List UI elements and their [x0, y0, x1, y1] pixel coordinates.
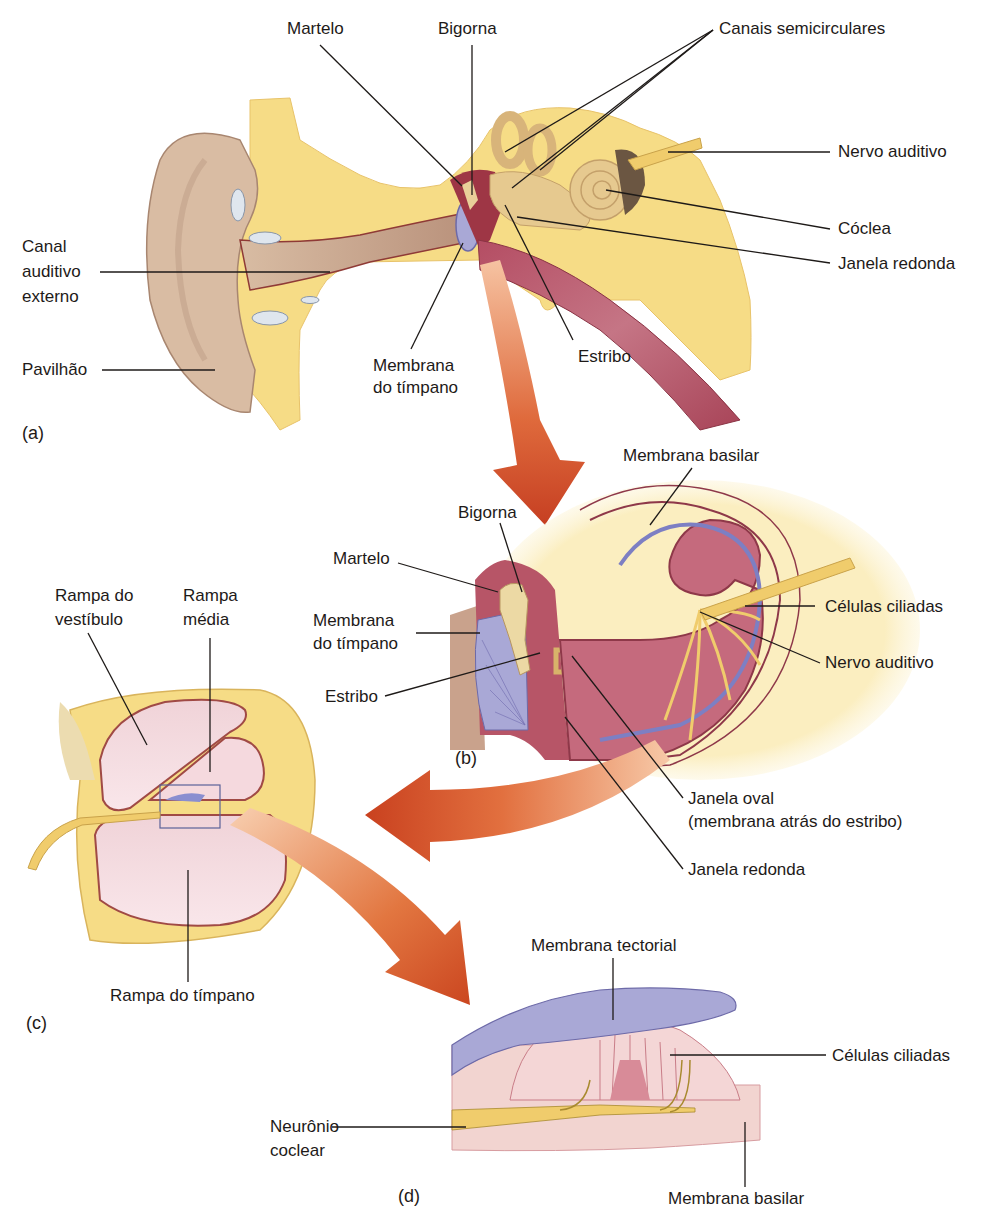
label-pavilhao: Pavilhão [22, 359, 87, 381]
label-membrana-tectorial: Membrana tectorial [531, 935, 677, 957]
label-janela-redonda-b: Janela redonda [688, 859, 805, 881]
label-martelo-a: Martelo [287, 18, 344, 40]
label-canal-auditivo-externo-l3: externo [22, 286, 79, 308]
label-bigorna-b: Bigorna [458, 502, 517, 524]
label-celulas-ciliadas-b: Células ciliadas [825, 596, 943, 618]
label-rampa-timpano: Rampa do tímpano [110, 985, 255, 1007]
label-membrana-timpano-b-l1: Membrana [313, 610, 394, 632]
arrow-b-to-c [365, 740, 670, 862]
label-neuronio-coclear-l2: coclear [270, 1140, 325, 1162]
label-canal-auditivo-externo-l1: Canal [22, 236, 66, 258]
label-rampa-vestibulo-l1: Rampa do [55, 585, 133, 607]
panel-tag-d: (d) [398, 1186, 420, 1207]
label-janela-oval-l1: Janela oval [688, 788, 774, 810]
label-canais-semicirculares: Canais semicirculares [719, 18, 885, 40]
label-estribo-b: Estribo [325, 686, 378, 708]
panel-tag-c: (c) [26, 1013, 47, 1034]
label-bigorna-a: Bigorna [438, 18, 497, 40]
label-estribo-a: Estribo [578, 346, 631, 368]
label-coclea: Cóclea [838, 218, 891, 240]
label-janela-oval-l2: (membrana atrás do estribo) [688, 811, 902, 833]
label-membrana-timpano-a-l1: Membrana [373, 355, 454, 377]
label-rampa-vestibulo-l2: vestíbulo [55, 609, 123, 631]
label-rampa-media-l2: média [183, 609, 229, 631]
label-nervo-auditivo-a: Nervo auditivo [838, 141, 947, 163]
panel-d-organ-of-corti [452, 988, 760, 1151]
label-membrana-basilar-b: Membrana basilar [623, 445, 759, 467]
label-membrana-basilar-d: Membrana basilar [668, 1188, 804, 1210]
label-membrana-timpano-b-l2: do tímpano [313, 633, 398, 655]
panel-tag-a: (a) [22, 423, 44, 444]
label-rampa-media-l1: Rampa [183, 585, 238, 607]
label-membrana-timpano-a-l2: do tímpano [373, 377, 458, 399]
label-martelo-b: Martelo [333, 548, 390, 570]
label-canal-auditivo-externo-l2: auditivo [22, 261, 81, 283]
label-neuronio-coclear-l1: Neurônio [270, 1116, 339, 1138]
label-janela-redonda-a: Janela redonda [838, 253, 955, 275]
label-nervo-auditivo-b: Nervo auditivo [825, 652, 934, 674]
panel-tag-b: (b) [455, 748, 477, 769]
label-celulas-ciliadas-d: Células ciliadas [832, 1045, 950, 1067]
panel-b-cochlea-uncoiled [450, 480, 920, 780]
